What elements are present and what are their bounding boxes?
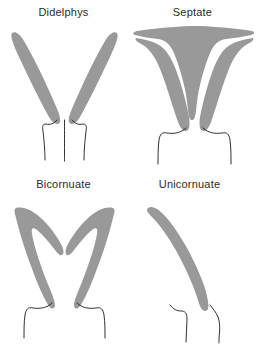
unicornuate-horn [147,207,208,311]
bicornuate-cervix-vagina-outline [24,303,105,338]
bicornuate-left-horn [15,208,64,309]
bicornuate-illustration [0,172,129,344]
uterine-anomalies-figure: Didelphys Septate [0,0,259,344]
unicornuate-cervix-vagina-outline [170,305,220,343]
septate-illustration [130,0,259,172]
didelphys-right-horn [69,32,118,124]
didelphys-illustration [0,0,129,172]
panel-septate: Septate [130,0,259,172]
didelphys-left-horn [11,32,60,124]
unicornuate-illustration [130,172,259,344]
septate-cervix-vagina-outline [158,128,231,164]
panel-bicornuate: Bicornuate [0,172,129,344]
didelphys-cervix-vagina-outlines [43,120,87,161]
panel-unicornuate: Unicornuate [130,172,259,344]
septate-body [133,26,254,120]
bicornuate-right-horn [66,208,115,309]
panel-didelphys: Didelphys [0,0,129,172]
